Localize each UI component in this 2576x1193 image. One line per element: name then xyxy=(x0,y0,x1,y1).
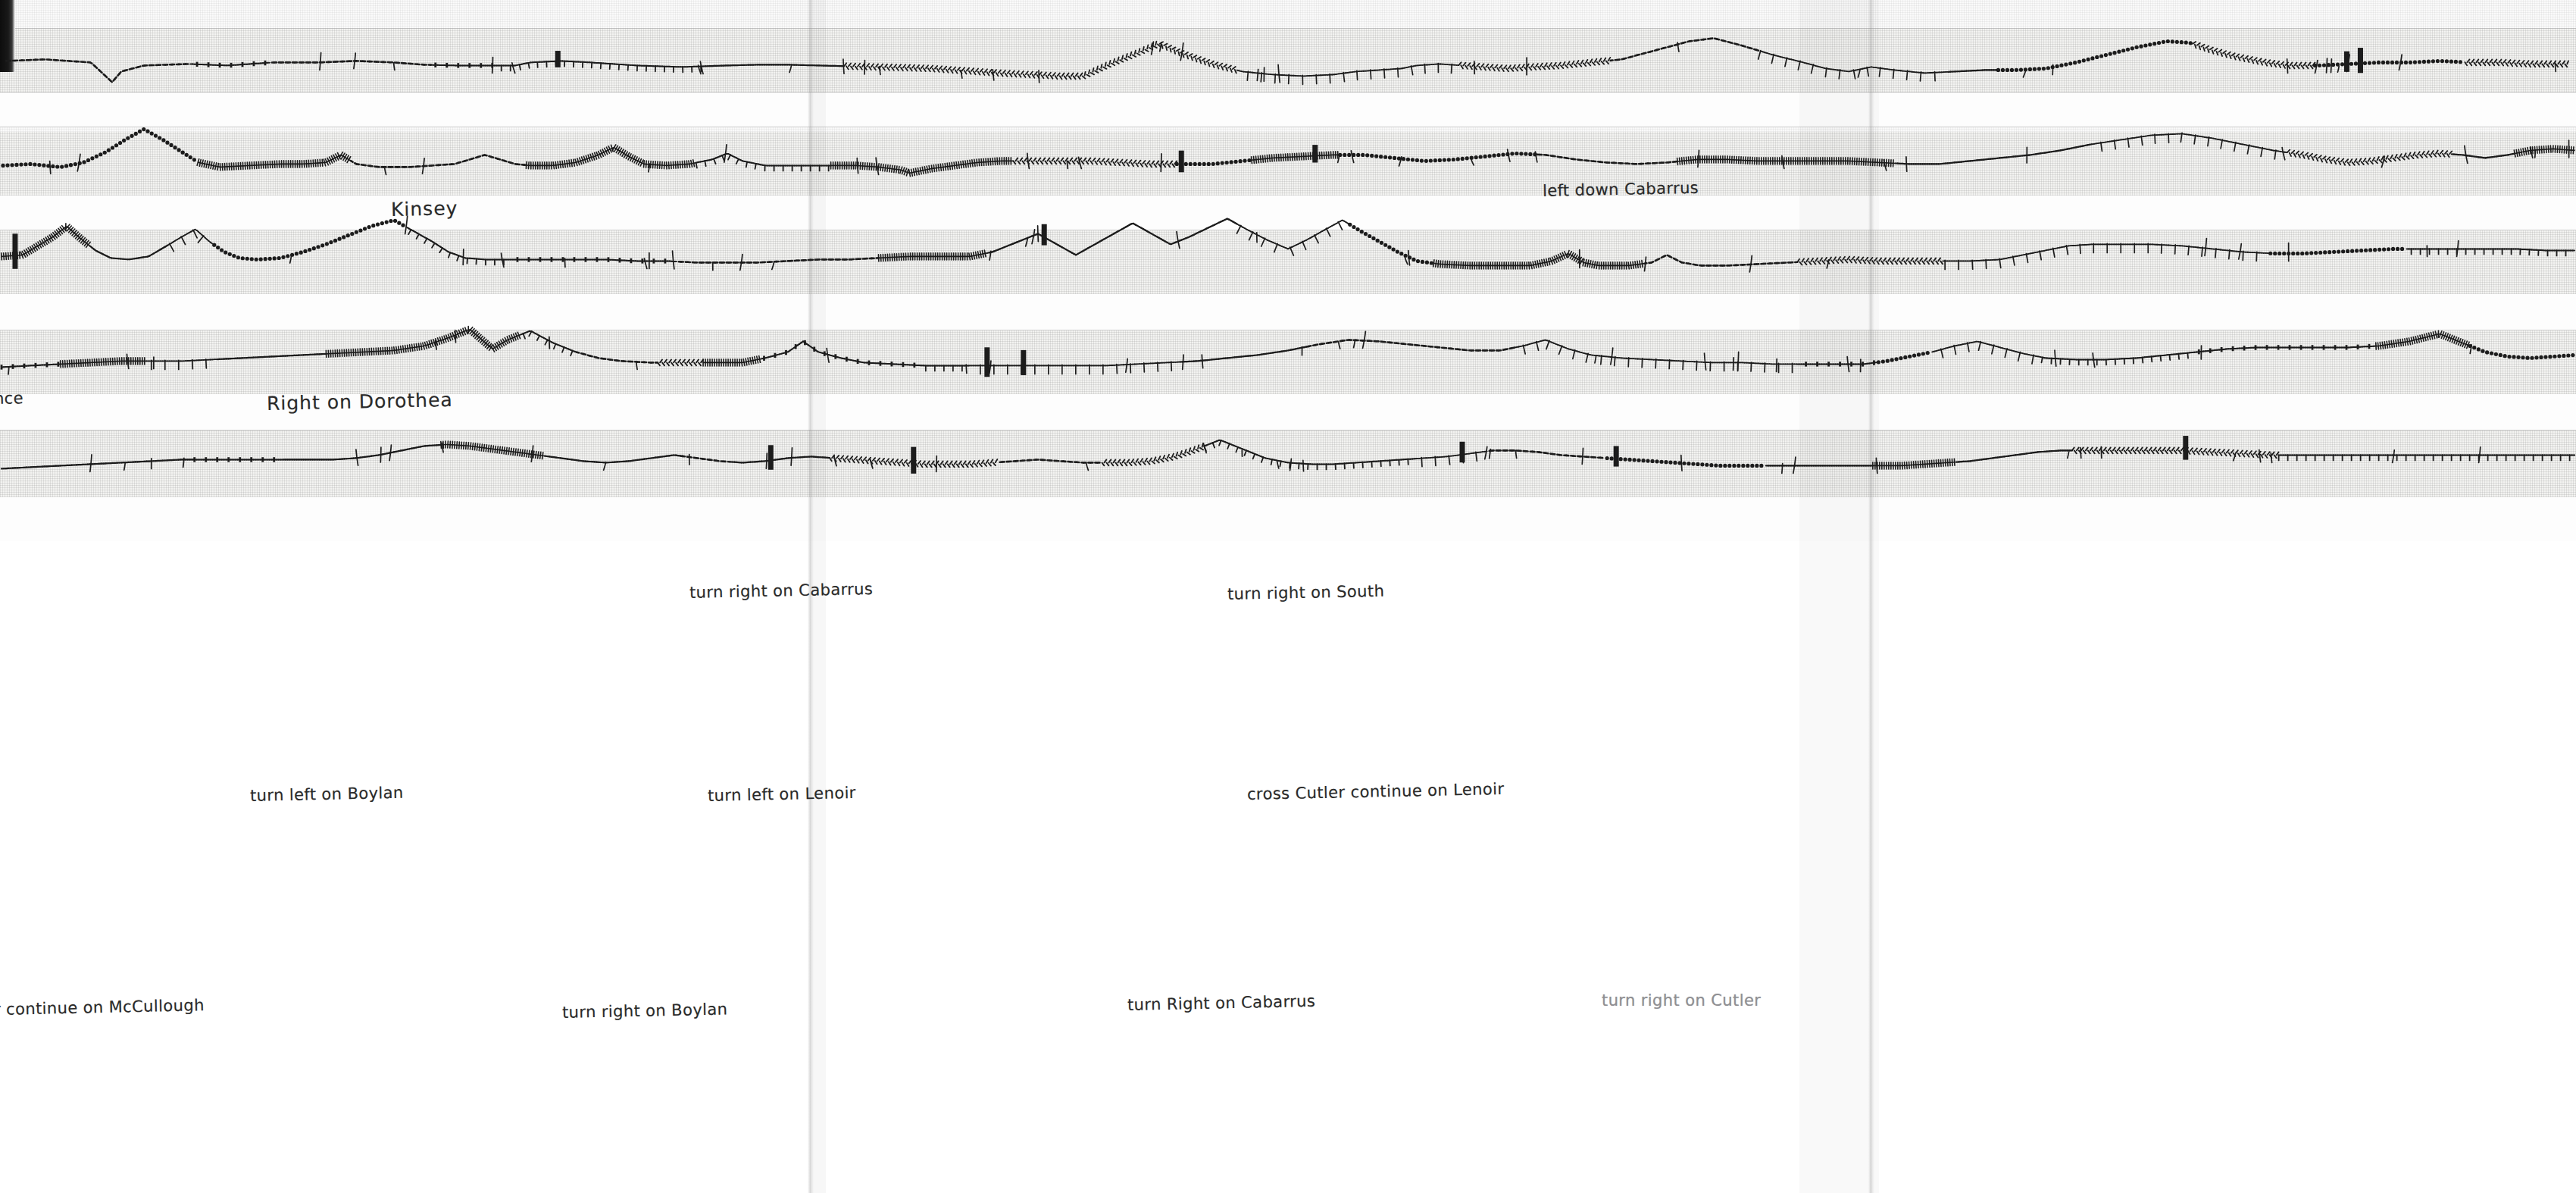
stitch-path-group xyxy=(1,127,2574,177)
annotation-turn-right-on-cutler: turn right on Cutler xyxy=(1602,991,1761,1010)
stitch-tick-mark xyxy=(2555,63,2556,71)
stitch-tick-mark xyxy=(1177,232,1180,249)
stitch-tick-mark xyxy=(463,249,464,265)
annotation-continue-on-mccullough: r continue on McCullough xyxy=(0,996,205,1019)
stitch-path-group xyxy=(2,216,2574,271)
stitch-tick-mark xyxy=(394,63,395,70)
stitch-row xyxy=(0,305,2576,396)
annotation-turn-right-on-cabarrus: turn right on Cabarrus xyxy=(689,580,874,602)
stitch-tick-mark xyxy=(1782,464,1783,474)
stitch-tick-mark xyxy=(2338,66,2340,72)
stitch-dense-bar xyxy=(555,51,561,67)
annotation-turn-right-on-cabarrus-2: turn Right on Cabarrus xyxy=(1127,992,1316,1014)
stitch-tick-mark xyxy=(772,262,774,269)
annotation-florence-cont: nce xyxy=(0,389,23,408)
stitch-tick-mark xyxy=(936,456,937,472)
stitch-tick-mark xyxy=(1485,446,1487,459)
stitch-tick-mark xyxy=(385,168,386,174)
stitch-tick-mark xyxy=(124,463,125,470)
stitch-dense-bar xyxy=(2358,48,2363,73)
stitch-row-drawing xyxy=(0,5,2576,96)
stitch-dense-bar xyxy=(12,233,17,268)
stitch-tick-mark xyxy=(724,145,727,162)
stitch-tick-mark xyxy=(2068,452,2069,458)
stitch-tick-mark xyxy=(2287,59,2288,74)
stitch-tick-mark xyxy=(2282,148,2285,160)
stitch-tick-mark xyxy=(2205,239,2206,256)
stitch-tick-mark xyxy=(1705,353,1706,370)
stitch-tick-mark xyxy=(1681,456,1682,471)
annotation-turn-right-on-south: turn right on South xyxy=(1227,582,1385,603)
annotation-left-down-cabarrus: left down Cabarrus xyxy=(1543,179,1699,200)
stitch-tick-mark xyxy=(791,448,792,465)
stitch-tick-mark xyxy=(843,59,844,74)
stitch-dense-bar xyxy=(1179,151,1184,173)
stitch-row xyxy=(0,205,2576,296)
stitch-tick-mark xyxy=(2535,150,2536,158)
stitch-tick-mark xyxy=(1126,359,1127,372)
annotation-turn-left-on-boylan: turn left on Boylan xyxy=(250,784,404,805)
stitch-tick-mark xyxy=(512,63,515,74)
stitch-tick-mark xyxy=(2393,450,2395,463)
stitch-tick-mark xyxy=(789,64,792,72)
stitch-tick-mark xyxy=(1471,159,1474,165)
stitch-tick-mark xyxy=(1405,258,1407,265)
stitch-tick-mark xyxy=(1303,460,1304,471)
stitch-tick-mark xyxy=(492,57,493,73)
stitch-tick-mark xyxy=(1698,150,1699,167)
stitch-tick-mark xyxy=(2080,448,2081,459)
stitch-tick-mark xyxy=(857,158,858,174)
stitch-path-group xyxy=(6,39,2568,85)
stitch-tick-mark xyxy=(1733,358,1734,371)
stitch-tick-mark xyxy=(644,258,646,268)
stitch-dense-bar xyxy=(1614,446,1619,466)
stitch-tick-mark xyxy=(90,455,92,471)
stitch-tick-mark xyxy=(1876,458,1877,473)
annotation-cross-cutler-continue-on-lenoir: cross Cutler continue on Lenoir xyxy=(1247,780,1505,803)
stitch-path-group xyxy=(1,327,2575,377)
stitch-tick-mark xyxy=(1906,157,1907,171)
stitch-row-drawing xyxy=(0,405,2576,496)
stitch-tick-mark xyxy=(1354,340,1355,348)
stitch-tick-mark xyxy=(1290,459,1292,470)
stitch-tick-mark xyxy=(1595,355,1596,363)
stitch-tick-mark xyxy=(1038,226,1039,242)
stitch-tick-mark xyxy=(50,161,51,174)
stitch-tick-mark xyxy=(1277,462,1279,468)
stitch-dense-bar xyxy=(2344,52,2349,72)
scanned-document-sheet: Kinseyleft down Cabarruscross Cabarrus t… xyxy=(0,0,2576,1193)
stitch-dense-bar xyxy=(911,447,916,474)
stitch-tick-mark xyxy=(1257,69,1258,80)
annotation-turn-right-on-boylan: turn right on Boylan xyxy=(562,1000,728,1022)
annotation-kinsey: Kinsey xyxy=(391,197,458,221)
stitch-tick-mark xyxy=(961,70,962,78)
stitch-tick-mark xyxy=(1339,343,1340,349)
stitch-dense-bar xyxy=(1312,145,1318,162)
stitch-row-drawing xyxy=(0,305,2576,396)
stitch-dense-bar xyxy=(1042,224,1047,246)
stitch-row xyxy=(0,105,2576,196)
stitch-tick-mark xyxy=(766,453,767,468)
stitch-tick-mark xyxy=(1515,450,1516,458)
stitch-tick-mark xyxy=(320,53,321,70)
stitch-tick-mark xyxy=(673,251,674,269)
stitch-tick-mark xyxy=(455,330,456,343)
annotation-turn-left-on-lenoir: turn left on Lenoir xyxy=(708,784,856,805)
stitch-row-drawing xyxy=(0,105,2576,196)
stitch-tick-mark xyxy=(290,255,292,263)
stitch-row xyxy=(0,405,2576,496)
paper-gap-row5 xyxy=(0,497,2576,541)
stitch-tick-mark xyxy=(1026,239,1028,246)
stitch-dense-bar xyxy=(1021,350,1026,375)
stitch-dense-bar xyxy=(984,347,989,377)
stitch-row-drawing xyxy=(0,205,2576,296)
stitch-path-group xyxy=(2,436,2574,474)
stitch-tick-mark xyxy=(2055,350,2056,366)
stitch-tick-mark xyxy=(1408,251,1410,265)
stitch-row xyxy=(0,5,2576,96)
stitch-tick-mark xyxy=(1278,64,1280,83)
stitch-tick-mark xyxy=(1645,257,1646,271)
stitch-tick-mark xyxy=(2331,59,2332,73)
stitch-tick-mark xyxy=(1858,70,1860,77)
stitch-tick-mark xyxy=(1067,161,1068,169)
